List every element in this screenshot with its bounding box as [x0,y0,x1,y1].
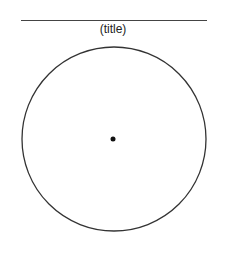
diagram-canvas [0,0,226,261]
center-point [111,137,116,142]
